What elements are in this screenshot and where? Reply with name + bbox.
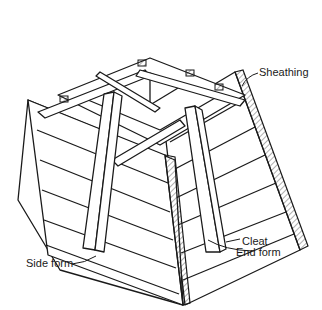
- sheathing-leader: [242, 73, 258, 86]
- sheathing-label: Sheathing: [259, 66, 309, 78]
- cleat-leader: [226, 239, 240, 242]
- side-form-leader: [72, 256, 96, 264]
- column-form-diagram: Sheathing Cleat End form Side form: [0, 0, 322, 310]
- end-form-label: End form: [236, 246, 281, 258]
- side-form-label: Side form: [26, 257, 73, 269]
